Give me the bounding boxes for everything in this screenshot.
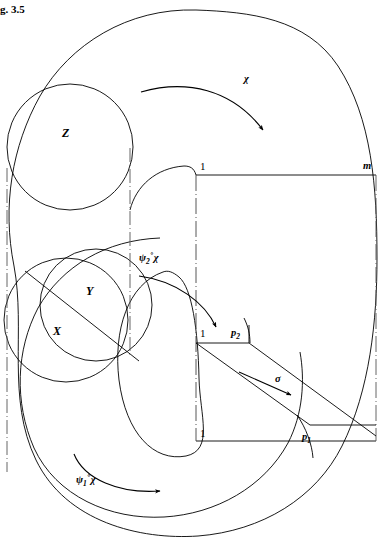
set-label-y: Y xyxy=(86,285,93,297)
xy-chord-line xyxy=(25,271,139,361)
sigma-band-upper-edge xyxy=(196,343,376,436)
point-label-one-mid: 1 xyxy=(200,328,206,339)
sigma-arrow xyxy=(239,372,291,395)
point-label-p1: p1 xyxy=(302,432,311,445)
set-x-circle xyxy=(4,258,128,382)
map-label-chi: χ xyxy=(244,74,249,85)
figure-caption: g. 3.5 xyxy=(0,4,25,15)
p2-subscript: 2 xyxy=(236,332,240,341)
point-label-m: m xyxy=(363,161,371,172)
psi2-chi-glyph: χ xyxy=(154,252,159,263)
psi1-glyph: ψ xyxy=(76,474,83,485)
point-label-one-bottom: 1 xyxy=(200,428,206,439)
upper-lobe-arc xyxy=(130,166,196,210)
map-label-psi2-chi: ψ2∘χ xyxy=(139,250,159,265)
set-z-circle xyxy=(7,84,133,210)
outer-region-boundary xyxy=(9,10,377,537)
center-fiber-oval xyxy=(118,271,204,457)
chi-arrow xyxy=(141,87,263,130)
diagram-canvas xyxy=(0,0,385,540)
inner-region-boundary xyxy=(20,238,302,517)
set-label-x: X xyxy=(53,325,61,337)
map-label-psi1-chi: ψ1∘χ xyxy=(76,472,96,487)
psi1-chi-glyph: χ xyxy=(91,474,96,485)
p1-subscript: 1 xyxy=(307,436,311,445)
figure-3-5-diagram: g. 3.5 Z Y X χ ψ2∘χ ψ1∘χ σ 1 1 1 m p2 p1 xyxy=(0,0,385,540)
psi2-glyph: ψ xyxy=(139,252,146,263)
point-label-p2: p2 xyxy=(231,328,240,341)
set-label-z: Z xyxy=(62,127,69,139)
map-label-sigma: σ xyxy=(275,374,281,385)
sigma-band-lower-edge xyxy=(196,343,376,425)
point-label-one-top: 1 xyxy=(200,161,206,172)
